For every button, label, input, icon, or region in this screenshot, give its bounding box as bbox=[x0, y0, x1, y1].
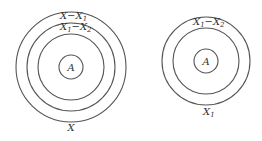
label-x: X bbox=[66, 122, 75, 133]
diagram-svg: X−X1 X1−X2 A X X1−X2 A X1 bbox=[0, 0, 262, 141]
right-set-diagram: X1−X2 A X1 bbox=[162, 16, 250, 119]
nested-sets-diagram: X−X1 X1−X2 A X X1−X2 A X1 bbox=[0, 0, 262, 141]
label-x1-minus-x2: X1−X2 bbox=[59, 21, 92, 34]
left-set-diagram: X−X1 X1−X2 A X bbox=[16, 10, 126, 133]
label-x1-minus-x2: X1−X2 bbox=[192, 16, 225, 29]
label-a: A bbox=[201, 56, 209, 67]
label-x1: X1 bbox=[202, 106, 215, 119]
label-a: A bbox=[66, 62, 74, 73]
